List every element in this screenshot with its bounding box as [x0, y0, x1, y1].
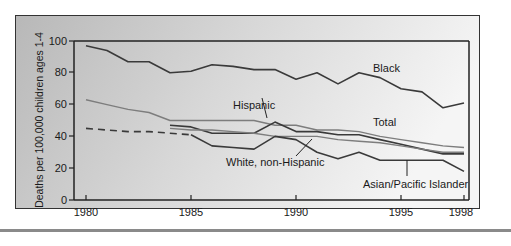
- y-tick-label-0: 0: [61, 194, 67, 206]
- x-tick-label-1990: 1990: [284, 206, 308, 218]
- x-tick-label-1998: 1998: [449, 206, 473, 218]
- y-tick-label-100: 100: [49, 35, 67, 47]
- y-tick-label-60: 60: [55, 98, 67, 110]
- y-tick-label-20: 20: [55, 162, 67, 174]
- x-tick-label-1995: 1995: [389, 206, 413, 218]
- label-total: Total: [373, 116, 396, 128]
- plot-layer: 0 20 40 60 80 100 1980 1985 1990 1995 19…: [0, 0, 511, 246]
- x-tick-label-1985: 1985: [179, 206, 203, 218]
- label-white: White, non-Hispanic: [226, 156, 325, 168]
- label-black: Black: [373, 62, 400, 74]
- x-tick-label-1980: 1980: [74, 206, 98, 218]
- y-tick-label-80: 80: [55, 66, 67, 78]
- y-tick-label-40: 40: [55, 130, 67, 142]
- label-hispanic: Hispanic: [233, 99, 276, 111]
- y-axis-title: Deaths per 100,000 children ages 1-4: [33, 32, 45, 208]
- label-asian: Asian/Pacific Islander: [363, 178, 468, 190]
- bottom-rule: [0, 229, 511, 232]
